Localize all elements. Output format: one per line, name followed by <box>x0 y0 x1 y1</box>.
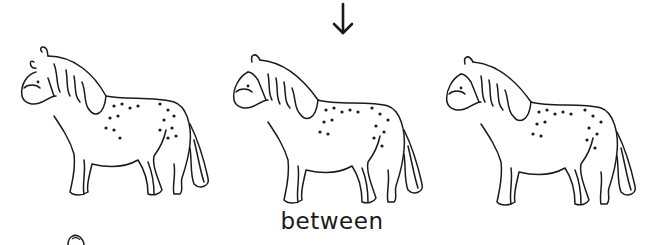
horse-icon <box>228 50 428 210</box>
horse-icon <box>445 52 645 212</box>
partial-drawing-icon <box>64 231 86 245</box>
vocabulary-word: between <box>0 208 664 234</box>
arrow-down-icon <box>330 2 356 36</box>
horse-icon <box>14 44 214 204</box>
horse-left <box>14 44 214 204</box>
horse-right <box>445 52 645 212</box>
horse-middle <box>228 50 428 210</box>
